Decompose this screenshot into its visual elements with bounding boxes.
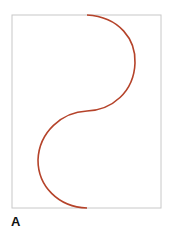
diagram-canvas [0,0,174,237]
diagram-figure: A [0,0,174,237]
panel-label: A [11,214,20,229]
